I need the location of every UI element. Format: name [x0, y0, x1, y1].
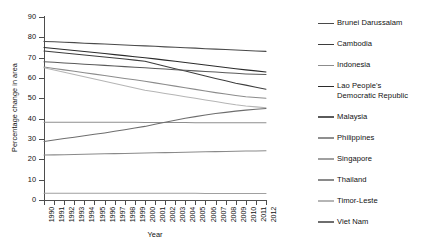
legend-label: Singapore [337, 154, 372, 164]
x-axis-label: Year [44, 230, 266, 239]
legend-swatch-icon [318, 44, 334, 46]
legend-label: Timor-Leste [337, 196, 378, 206]
legend-swatch-icon [318, 86, 334, 88]
series-line [44, 51, 266, 89]
legend-swatch-icon [318, 65, 334, 67]
series-line [44, 151, 266, 155]
legend-label: Brunei Darussalam [337, 18, 402, 28]
legend-label: Cambodia [337, 39, 372, 49]
chart-root: Percentage change in area 01020304050607… [0, 0, 438, 242]
legend-item[interactable]: Brunei Darussalam [318, 18, 402, 28]
series-line [44, 68, 266, 108]
legend-item[interactable]: Timor-Leste [318, 196, 378, 206]
legend-swatch-icon [318, 200, 334, 202]
legend-item[interactable]: Lao People's Democratic Republic [318, 81, 408, 100]
legend-label: Malaysia [337, 112, 367, 122]
legend-item[interactable]: Viet Nam [318, 217, 369, 227]
series-line [44, 109, 266, 142]
legend-swatch-icon [318, 158, 334, 160]
plot-area: Percentage change in area 01020304050607… [0, 0, 275, 242]
series-lines [0, 0, 275, 242]
series-line [44, 41, 266, 51]
legend-item[interactable]: Thailand [318, 175, 367, 185]
legend-item[interactable]: Malaysia [318, 112, 367, 122]
legend-item[interactable]: Singapore [318, 154, 372, 164]
legend-swatch-icon [318, 221, 334, 223]
legend-item[interactable]: Philippines [318, 133, 374, 143]
legend-item[interactable]: Cambodia [318, 39, 372, 49]
legend-label: Thailand [337, 175, 367, 185]
legend-swatch-icon [318, 116, 334, 118]
legend-label: Philippines [337, 133, 374, 143]
legend-label: Viet Nam [337, 217, 369, 227]
legend-swatch-icon [318, 179, 334, 181]
legend-swatch-icon [318, 137, 334, 139]
legend-label: Indonesia [337, 60, 370, 70]
legend-item[interactable]: Indonesia [318, 60, 370, 70]
legend-label: Lao People's Democratic Republic [337, 81, 408, 100]
legend-swatch-icon [318, 23, 334, 25]
